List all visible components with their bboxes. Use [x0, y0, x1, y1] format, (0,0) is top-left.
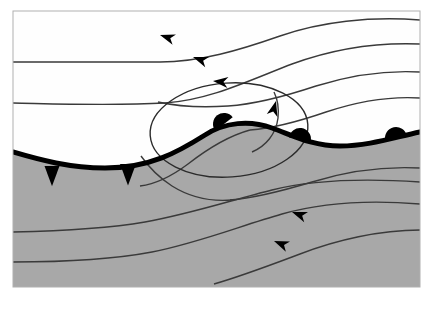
map-panel: [3, 11, 430, 297]
weather-map-figure: [0, 0, 436, 310]
weather-map-canvas: [0, 0, 436, 310]
